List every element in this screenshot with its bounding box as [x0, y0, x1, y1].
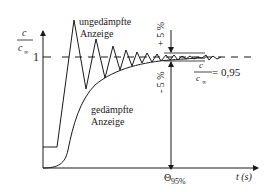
- upper-tolerance-label: + 5 %: [155, 22, 166, 46]
- svg-text:gedämpfte: gedämpfte: [91, 104, 134, 115]
- svg-text:c: c: [22, 27, 27, 38]
- x-axis-label: t (s): [236, 171, 253, 183]
- ratio-label: c c ∞ = 0,95: [194, 60, 241, 85]
- svg-text:95%: 95%: [171, 177, 186, 186]
- svg-text:c: c: [18, 42, 23, 53]
- svg-text:Anzeige: Anzeige: [80, 28, 114, 39]
- svg-text:∞: ∞: [24, 49, 28, 55]
- svg-text:c: c: [196, 73, 200, 83]
- step-response-diagram: 1 c c ∞ ungedämpfte Anzeige gedämpfte An…: [0, 0, 269, 192]
- damped-label: gedämpfte Anzeige: [91, 104, 134, 127]
- y-tick-label: 1: [33, 50, 39, 64]
- undamped-response-curve: [43, 20, 221, 147]
- svg-text:= 0,95: = 0,95: [212, 66, 241, 78]
- theta-95-label: Θ 95%: [164, 172, 186, 186]
- lower-tolerance-label: - 5 %: [155, 71, 166, 93]
- theta-95-marker-line: [168, 30, 174, 170]
- svg-text:c: c: [199, 60, 203, 70]
- undamped-label: ungedämpfte Anzeige: [79, 16, 132, 39]
- y-axis-label: c c ∞: [17, 27, 33, 55]
- svg-text:Anzeige: Anzeige: [91, 116, 125, 127]
- svg-text:ungedämpfte: ungedämpfte: [79, 16, 132, 27]
- svg-text:∞: ∞: [202, 79, 206, 85]
